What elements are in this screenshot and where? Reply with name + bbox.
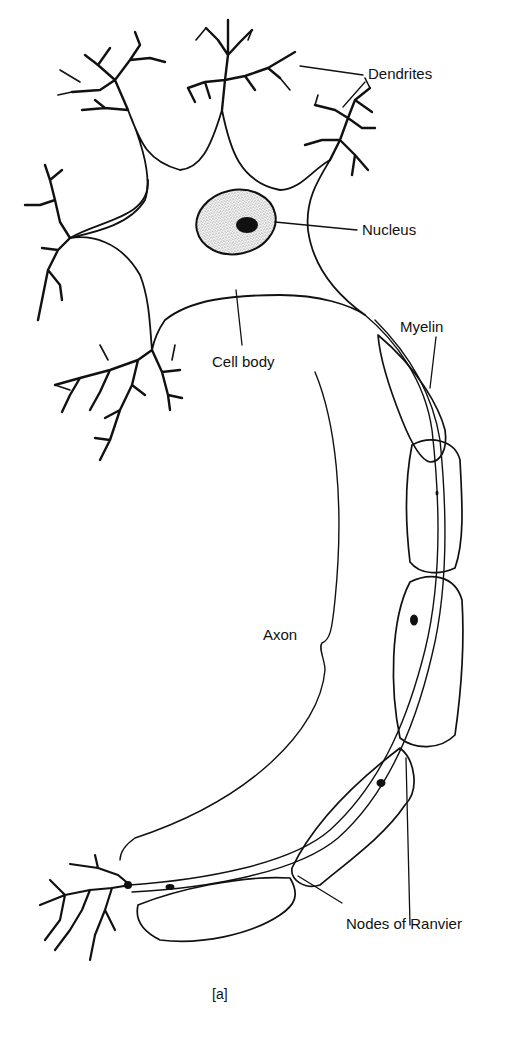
label-nodes-of-ranvier: Nodes of Ranvier xyxy=(346,916,462,931)
axon-bracket xyxy=(120,372,339,860)
schwann-cell-nuclei xyxy=(166,491,439,891)
label-dendrites: Dendrites xyxy=(368,66,432,81)
label-axon: Axon xyxy=(263,627,297,642)
myelin-sheaths xyxy=(137,335,463,941)
figure-caption: [a] xyxy=(212,987,228,1001)
axon-hillock-dot xyxy=(124,881,132,889)
neuron-illustration xyxy=(0,0,505,1047)
axon-shape xyxy=(130,315,445,892)
label-myelin: Myelin xyxy=(400,319,443,334)
label-cell-body: Cell body xyxy=(212,354,275,369)
neuron-diagram: Dendrites Nucleus Myelin Cell body Axon … xyxy=(0,0,505,1047)
nucleus-shape xyxy=(190,182,282,261)
label-nucleus: Nucleus xyxy=(362,222,416,237)
axon-terminal xyxy=(40,855,130,960)
